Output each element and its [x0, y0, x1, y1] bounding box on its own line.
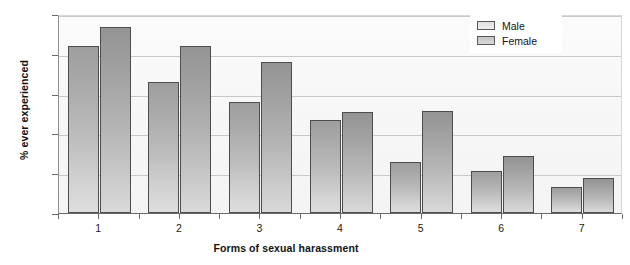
x-tick-label: 5	[401, 222, 441, 234]
x-group-separator-tick	[461, 214, 462, 219]
y-axis-title: % ever experienced	[18, 30, 30, 190]
x-group-separator-tick	[58, 214, 59, 219]
x-tick-mark	[179, 214, 180, 219]
x-tick-label: 3	[239, 222, 279, 234]
bar-male-2	[148, 82, 179, 213]
x-tick-mark	[340, 214, 341, 219]
x-tick-mark	[259, 214, 260, 219]
x-tick-label: 6	[481, 222, 521, 234]
bar-female-2	[180, 46, 211, 213]
bar-male-3	[229, 102, 260, 213]
y-tick-mark	[52, 95, 58, 96]
legend-item-female: Female	[477, 33, 556, 48]
y-tick-mark	[52, 174, 58, 175]
x-group-separator-tick	[219, 214, 220, 219]
bar-male-1	[68, 46, 99, 213]
x-tick-mark	[501, 214, 502, 219]
legend-swatch-female-icon	[477, 36, 495, 45]
x-group-separator-tick	[139, 214, 140, 219]
legend-label-female: Female	[502, 35, 537, 47]
bar-male-7	[551, 187, 582, 213]
y-tick-mark	[52, 15, 58, 16]
legend-label-male: Male	[502, 20, 525, 32]
x-tick-label: 2	[159, 222, 199, 234]
x-tick-label: 1	[78, 222, 118, 234]
x-group-separator-tick	[300, 214, 301, 219]
bar-chart: % ever experienced Forms of sexual haras…	[0, 0, 630, 265]
gridline	[59, 96, 621, 97]
legend-item-male: Male	[477, 18, 556, 33]
x-tick-mark	[421, 214, 422, 219]
bar-female-5	[422, 111, 453, 213]
x-tick-mark	[98, 214, 99, 219]
bar-female-1	[100, 27, 131, 213]
x-group-separator-tick	[622, 214, 623, 219]
x-group-separator-tick	[380, 214, 381, 219]
bar-female-3	[261, 62, 292, 213]
bar-female-7	[583, 178, 614, 213]
legend-swatch-male-icon	[477, 21, 495, 30]
x-axis-title: Forms of sexual harassment	[58, 242, 514, 254]
gridline	[59, 56, 621, 57]
y-tick-mark	[52, 134, 58, 135]
x-group-separator-tick	[541, 214, 542, 219]
x-tick-label: 4	[320, 222, 360, 234]
chart-legend: Male Female	[470, 13, 562, 53]
bar-male-4	[310, 120, 341, 213]
x-tick-label: 7	[562, 222, 602, 234]
bar-female-6	[503, 156, 534, 213]
y-tick-mark	[52, 55, 58, 56]
bar-male-6	[471, 171, 502, 213]
x-tick-mark	[582, 214, 583, 219]
bar-male-5	[390, 162, 421, 213]
bar-female-4	[342, 112, 373, 213]
